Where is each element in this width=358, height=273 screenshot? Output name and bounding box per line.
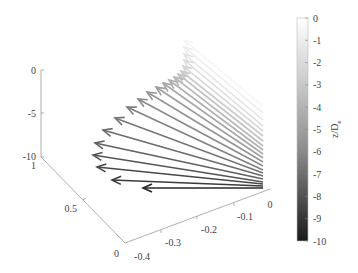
quiver-3d-chart: 0 -5 -10 1 0.5 0 -0.4 -0.3 -0.2 -0.1 0 0… xyxy=(0,0,358,273)
colorbar: 0-1-2-3-4-5-6-7-8-9-10 z/De xyxy=(297,13,343,247)
quiver-arrows xyxy=(93,40,263,192)
z-tick: -5 xyxy=(28,108,36,119)
z-tick-labels: 0 -5 -10 xyxy=(23,65,36,162)
x-tick: -0.2 xyxy=(201,224,217,235)
colorbar-tick: -1 xyxy=(313,35,321,46)
colorbar-tick: -2 xyxy=(313,57,321,68)
arrow-head xyxy=(147,92,157,100)
y-tick: 1 xyxy=(31,160,36,171)
arrow-shaft xyxy=(127,107,263,170)
colorbar-tick: -3 xyxy=(313,79,321,90)
colorbar-tick: -8 xyxy=(313,191,321,202)
arrow-shaft xyxy=(184,40,263,106)
colorbar-tick: -10 xyxy=(313,236,326,247)
colorbar-tick: -7 xyxy=(313,169,321,180)
colorbar-label: z/De xyxy=(329,120,343,138)
y-tick: 0 xyxy=(114,248,119,259)
colorbar-tick: -5 xyxy=(313,124,321,135)
x-tick: -0.4 xyxy=(134,251,150,262)
x-tick: -0.3 xyxy=(165,237,181,248)
colorbar-tick: -4 xyxy=(313,102,321,113)
x-tick: 0 xyxy=(268,199,273,210)
y-tick: 0.5 xyxy=(65,203,78,214)
x-tick-labels: -0.4 -0.3 -0.2 -0.1 0 xyxy=(134,199,272,262)
arrow-shaft xyxy=(184,47,263,113)
colorbar-tick: 0 xyxy=(313,13,318,24)
y-tick-labels: 1 0.5 0 xyxy=(31,160,119,259)
x-tick: -0.1 xyxy=(237,211,253,222)
colorbar-tick: -9 xyxy=(313,213,321,224)
arrow-shaft xyxy=(95,143,263,179)
z-tick: 0 xyxy=(31,65,36,76)
colorbar-tick: -6 xyxy=(313,146,321,157)
